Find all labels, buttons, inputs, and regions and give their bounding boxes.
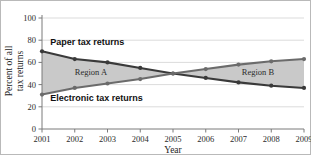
y-tick-label: 60: [28, 57, 37, 67]
y-tick-label: 0: [32, 124, 36, 134]
data-point: [40, 92, 44, 96]
y-tick-label: 100: [23, 13, 36, 23]
x-tick-label: 2007: [230, 134, 247, 144]
y-tick-label: 80: [28, 35, 37, 45]
data-point: [236, 63, 240, 67]
region-annotation: Region A: [75, 67, 108, 77]
y-tick-label: 40: [28, 80, 37, 90]
data-point: [302, 86, 306, 90]
data-point: [302, 57, 306, 61]
x-axis-tick-labels: 200120022003200420052006200720082009: [34, 134, 312, 144]
x-axis-title: Year: [164, 145, 182, 155]
data-point: [204, 76, 208, 80]
y-axis-tick-labels: 020406080100: [23, 13, 36, 134]
x-tick-label: 2003: [99, 134, 116, 144]
data-point: [73, 86, 77, 90]
chart-figure: 020406080100 200120022003200420052006200…: [0, 0, 311, 155]
data-point: [269, 59, 273, 63]
data-point: [73, 57, 77, 61]
data-point: [105, 60, 109, 64]
x-tick-label: 2005: [165, 134, 182, 144]
y-tick-label: 20: [28, 102, 37, 112]
data-point: [171, 71, 175, 75]
data-point: [138, 77, 142, 81]
data-point: [204, 67, 208, 71]
x-tick-label: 2001: [34, 134, 51, 144]
region-annotation: Region B: [242, 67, 275, 77]
x-tick-label: 2009: [296, 134, 312, 144]
data-point: [236, 80, 240, 84]
y-axis-title-line-2: tax returns: [15, 51, 25, 92]
data-point: [138, 66, 142, 70]
x-tick-label: 2004: [132, 134, 150, 144]
series-annotation: Electronic tax returns: [50, 93, 143, 103]
data-point: [40, 49, 44, 53]
x-tick-label: 2008: [263, 134, 280, 144]
x-tick-label: 2006: [197, 134, 214, 144]
data-point: [105, 81, 109, 85]
x-tick-label: 2002: [66, 134, 83, 144]
chart-annotations: Paper tax returnsElectronic tax returnsR…: [50, 37, 274, 104]
series-annotation: Paper tax returns: [50, 37, 124, 47]
tax-returns-line-chart: 020406080100 200120022003200420052006200…: [1, 1, 311, 155]
y-axis-title-line-1: Percent of all: [4, 45, 14, 96]
data-point: [269, 84, 273, 88]
